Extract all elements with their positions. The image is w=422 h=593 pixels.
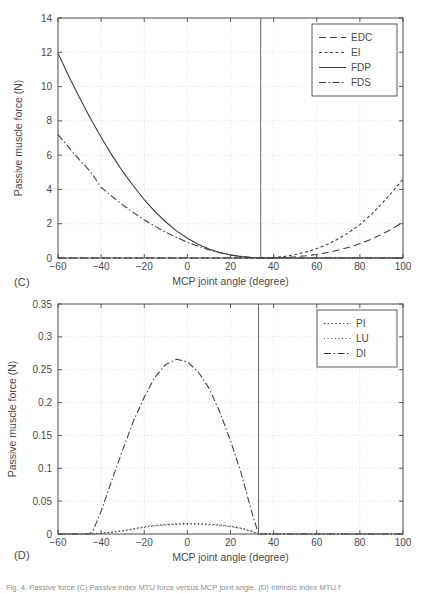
figure-caption: Fig. 4. Passive force (C) Passive index …	[6, 583, 418, 592]
panel-c-plot: −60−40−2002040608010002468101214MCP join…	[0, 0, 422, 300]
y-axis-title: Passive muscle force (N)	[12, 80, 24, 197]
y-tick-label: 0.1	[38, 463, 52, 474]
x-tick-label: 60	[311, 261, 323, 272]
legend-label-fdp: FDP	[351, 62, 371, 73]
x-tick-label: −20	[136, 537, 153, 548]
y-tick-label: 4	[46, 184, 52, 195]
chart-panel-c: −60−40−2002040608010002468101214MCP join…	[0, 0, 422, 300]
y-tick-label: 2	[46, 218, 52, 229]
x-tick-label: 80	[354, 537, 366, 548]
legend-label-ei: EI	[351, 47, 360, 58]
x-tick-label: 40	[268, 261, 280, 272]
legend-label-di: DI	[356, 348, 366, 359]
legend-label-pi: PI	[356, 318, 365, 329]
x-tick-label: −60	[50, 261, 67, 272]
x-tick-label: −20	[136, 261, 153, 272]
y-tick-label: 0.2	[38, 397, 52, 408]
panel-d-plot: −60−40−2002040608010000.050.10.150.20.25…	[0, 290, 422, 575]
x-tick-label: 100	[395, 537, 412, 548]
series-di	[58, 359, 403, 534]
x-tick-label: 40	[268, 537, 280, 548]
legend-label-fds: FDS	[351, 77, 371, 88]
y-tick-label: 0.15	[33, 430, 53, 441]
y-axis-title: Passive muscle force (N)	[6, 361, 18, 478]
x-tick-label: 0	[185, 537, 191, 548]
y-tick-label: 0.3	[38, 331, 52, 342]
x-tick-label: −40	[93, 261, 110, 272]
y-tick-label: 0.05	[33, 496, 53, 507]
legend-label-edc: EDC	[351, 32, 372, 43]
panel-c-label: (C)	[14, 276, 30, 288]
y-tick-label: 8	[46, 115, 52, 126]
figure-container: −60−40−2002040608010002468101214MCP join…	[0, 0, 422, 593]
x-tick-label: 100	[395, 261, 412, 272]
legend-label-lu: LU	[356, 333, 369, 344]
x-tick-label: −60	[50, 537, 67, 548]
x-axis-title: MCP joint angle (degree)	[172, 551, 289, 563]
y-tick-label: 0	[46, 529, 52, 540]
chart-panel-d: −60−40−2002040608010000.050.10.150.20.25…	[0, 290, 422, 575]
y-tick-label: 12	[41, 47, 53, 58]
x-tick-label: 20	[225, 537, 237, 548]
y-tick-label: 0.25	[33, 364, 53, 375]
panel-d-label: (D)	[14, 549, 30, 561]
x-tick-label: 0	[185, 261, 191, 272]
y-tick-label: 14	[41, 13, 53, 24]
y-tick-label: 10	[41, 81, 53, 92]
x-tick-label: −40	[93, 537, 110, 548]
x-tick-label: 80	[354, 261, 366, 272]
y-tick-label: 0.35	[33, 299, 53, 310]
x-axis-title: MCP joint angle (degree)	[172, 275, 289, 287]
x-tick-label: 60	[311, 537, 323, 548]
x-tick-label: 20	[225, 261, 237, 272]
y-tick-label: 6	[46, 150, 52, 161]
y-tick-label: 0	[46, 253, 52, 264]
